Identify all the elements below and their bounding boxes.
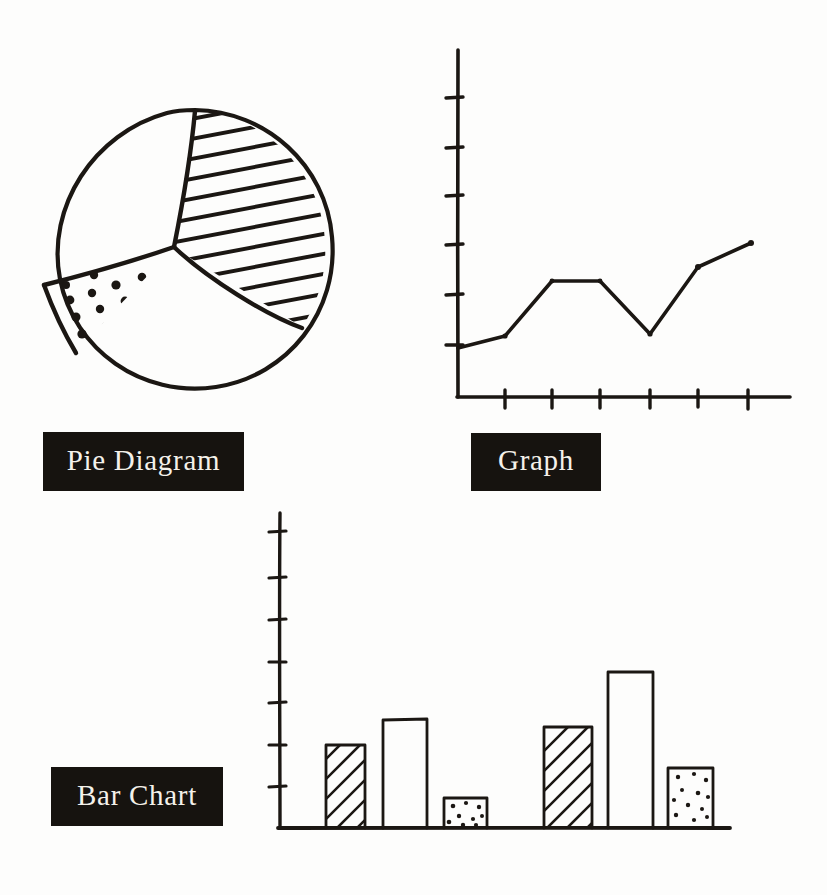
bar-group1-hatched — [300, 705, 380, 895]
graph-data-line — [458, 240, 754, 348]
bar-group2-dotted — [668, 768, 713, 828]
line-graph-svg — [430, 35, 820, 425]
bar-chart-figure — [250, 495, 760, 855]
caption-graph-text: Graph — [498, 446, 574, 478]
line-graph-figure — [430, 35, 820, 425]
bar-chart-svg — [250, 495, 760, 855]
pie-slice-dotted — [44, 247, 174, 353]
bar-baseline — [278, 828, 730, 829]
caption-bar-text: Bar Chart — [77, 781, 197, 813]
bar-group1-plain — [383, 719, 427, 828]
pie-diagram-figure — [30, 95, 360, 405]
graph-x-axis — [457, 390, 790, 409]
caption-pie-diagram: Pie Diagram — [44, 433, 243, 490]
pie-outline — [58, 110, 333, 389]
caption-bar-chart: Bar Chart — [52, 768, 222, 825]
caption-graph: Graph — [472, 434, 600, 490]
caption-pie-text: Pie Diagram — [67, 446, 220, 478]
pie-diagram-svg — [30, 95, 360, 405]
graph-data-points — [502, 240, 754, 339]
bar-group2-plain — [608, 672, 653, 828]
graph-y-axis — [446, 50, 463, 397]
bar-group1-dotted — [444, 798, 487, 828]
illustration-page: Pie Diagram — [0, 0, 827, 895]
bar-group2-hatched — [520, 685, 610, 895]
bar-y-axis — [269, 513, 286, 828]
